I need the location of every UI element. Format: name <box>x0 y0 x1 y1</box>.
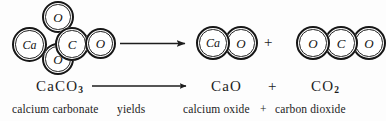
atom-label: O <box>53 11 62 24</box>
atom-ca: Ca <box>196 26 230 60</box>
atom-label: O <box>96 37 105 50</box>
atom-o-right: O <box>85 28 116 59</box>
reactant-formula-text: CaCO <box>36 78 78 94</box>
plus-sign-equation: + <box>268 79 278 94</box>
atom-label: O <box>236 37 245 50</box>
product-one-formula: CaO <box>211 79 242 94</box>
atom-ca: Ca <box>12 27 47 62</box>
atom-label: Ca <box>22 39 36 51</box>
caption-reactant-name: calcium carbonate <box>12 104 99 116</box>
product-two-formula-subscript: 2 <box>334 85 339 95</box>
atom-c-center: C <box>55 27 89 61</box>
atom-label: C <box>68 38 77 51</box>
reactant-formula: CaCO3 <box>36 79 83 96</box>
atom-label: O <box>364 37 373 50</box>
caption-arrow-word: yields <box>117 104 145 116</box>
plus-sign-top: + <box>264 35 272 50</box>
caption-plus-sign: + <box>260 104 267 116</box>
caption-product-two-name: carbon dioxide <box>275 104 346 116</box>
reactant-formula-subscript: 3 <box>78 85 83 95</box>
atom-o-left: O <box>296 26 330 60</box>
atom-label: Ca <box>206 37 220 49</box>
atom-label: O <box>308 37 317 50</box>
atom-label: C <box>337 37 346 50</box>
caption-product-one-name: calcium oxide <box>183 104 250 116</box>
product-two-formula-text: CO <box>311 78 334 94</box>
product-two-formula: CO2 <box>311 79 339 96</box>
